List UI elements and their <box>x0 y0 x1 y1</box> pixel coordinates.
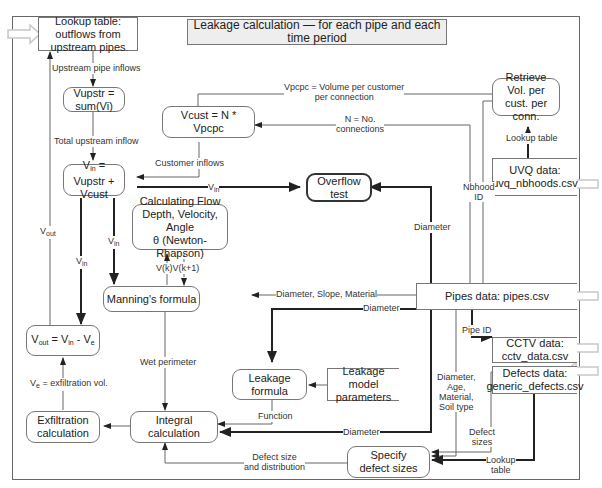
node-vupstr[interactable]: Vupstr = sum(Vi) <box>63 87 125 112</box>
cctv-title: CCTV data: <box>506 337 563 350</box>
label-vout-feedback: Vout <box>40 226 56 239</box>
label-diameter-slope-material: Diameter, Slope, Material <box>276 289 377 300</box>
label-diameter-overflow: Diameter <box>414 222 451 233</box>
node-lookup-outflows[interactable]: Lookup table: outflows from upstream pip… <box>38 17 138 51</box>
node-exfiltration[interactable]: Exfiltration calculation <box>26 411 100 443</box>
label-n-connections: N = No. connections <box>336 114 384 134</box>
vin-subscript: in <box>90 165 95 172</box>
edge-pipes-leakage <box>272 309 416 362</box>
label-pipe-id: Pipe ID <box>462 325 492 336</box>
label-damst-4: Soil type <box>437 402 476 412</box>
label-customer-inflows: Customer inflows <box>155 158 224 169</box>
newton-text: Calculating Flow Depth, Velocity, Angle <box>133 195 227 234</box>
label-lookup-1: Lookup <box>486 455 516 465</box>
label-defect-sizes-1: Defect <box>469 427 495 437</box>
node-defects-data[interactable]: Defects data: generic_defects.csv <box>492 366 577 394</box>
node-vcust[interactable]: Vcust = N * Vpcpc <box>162 106 255 138</box>
label-damst-1: Diameter, <box>437 372 476 382</box>
label-exfiltration-vol: Ve = exfiltration vol. <box>30 378 108 391</box>
node-cctv-data[interactable]: CCTV data: cctv_data.csv <box>492 337 577 363</box>
label-n-line1: N = No. <box>336 114 384 124</box>
uvq-file: uvq_nbhoods.csv <box>492 177 578 190</box>
node-specify-defects[interactable]: Specify defect sizes <box>347 446 430 478</box>
label-wet-perimeter: Wet perimeter <box>140 357 196 368</box>
node-integral-calculation[interactable]: Integral calculation <box>130 411 218 443</box>
vout-subscript: out <box>39 339 49 346</box>
label-vpcpc: Vpcpc = Volume per customer per connecti… <box>284 82 404 102</box>
label-nbhood-id: Nbhood ID <box>463 182 495 202</box>
node-uvq-data[interactable]: UVQ data: uvq_nbhoods.csv <box>492 158 577 196</box>
vout-equation: Vout = Vin - Ve <box>31 333 94 349</box>
label-function: Function <box>258 411 293 422</box>
label-nbhood-line1: Nbhood <box>463 182 495 192</box>
label-vin-vout: Vin <box>76 256 87 269</box>
label-vin-sub: in <box>214 186 219 193</box>
defects-title: Defects data: <box>503 367 568 380</box>
edge-pipes-overflow <box>370 187 431 283</box>
label-vpcpc-line2: per connection <box>284 92 404 102</box>
label-ve-text: = exfiltration vol. <box>40 378 108 388</box>
label-defect-sizes: Defect sizes <box>469 427 495 447</box>
label-defect-sizes-2: sizes <box>469 437 495 447</box>
node-overflow-test[interactable]: Overflow test <box>306 173 372 202</box>
vout-minus: - V <box>74 333 91 345</box>
node-vin[interactable]: Vin = Vupstr + Vcust <box>63 164 125 196</box>
vout-e-subscript: e <box>91 339 95 346</box>
label-lookup-table-uvq: Lookup table <box>506 133 558 144</box>
label-damst-3: Material, <box>437 392 476 402</box>
node-pipes-data[interactable]: Pipes data: pipes.csv <box>416 283 577 310</box>
label-diameter-leakage: Diameter <box>363 303 400 314</box>
node-mannings-formula[interactable]: Manning's formula <box>103 286 200 312</box>
label-defect-dist-1: Defect size <box>244 452 305 462</box>
vout-eq: = V <box>48 333 68 345</box>
label-total-upstream: Total upstream inflow <box>54 136 139 147</box>
node-leakage-params[interactable]: Leakage model parameters <box>327 368 399 401</box>
label-vin-overflow: Vin <box>208 182 219 195</box>
uvq-title: UVQ data: <box>509 164 560 177</box>
label-n-line2: connections <box>336 124 384 134</box>
label-vin2-sub: in <box>114 240 119 247</box>
vin-equation: Vin = <box>83 159 105 175</box>
edge-pipes-vcust <box>255 125 470 283</box>
label-vout-sub: out <box>46 230 56 237</box>
vin-rhs: Vupstr + Vcust <box>64 175 124 201</box>
newton-theta: θ (Newton-Rhapson) <box>133 234 227 260</box>
label-vin-manning: Vin <box>108 236 119 249</box>
label-vpcpc-line1: Vpcpc = Volume per customer <box>284 82 404 92</box>
node-vout[interactable]: Vout = Vin - Ve <box>26 325 100 356</box>
label-lookup-table-defects: Lookup table <box>486 455 516 475</box>
cctv-file: cctv_data.csv <box>502 350 569 363</box>
label-nbhood-line2: ID <box>463 192 495 202</box>
label-damst-2: Age, <box>437 382 476 392</box>
label-vk: V(k)V(k+1) <box>156 263 199 274</box>
node-leakage-formula[interactable]: Leakage formula <box>232 369 307 400</box>
defects-file: generic_defects.csv <box>486 380 583 393</box>
vout-symbol: V <box>31 333 38 345</box>
label-defect-distribution: Defect size and distribution <box>244 452 305 472</box>
label-diameter-integral: Diameter <box>343 427 380 438</box>
label-defect-dist-2: and distribution <box>244 462 305 472</box>
label-upstream-inflows: Upstream pipe inflows <box>52 63 141 74</box>
external-input-arrow-lookup <box>8 25 40 43</box>
label-vin3-sub: in <box>82 260 87 267</box>
label-lookup-2: table <box>486 465 516 475</box>
node-newton-rhapson[interactable]: Calculating Flow Depth, Velocity, Angle … <box>132 204 228 250</box>
diagram-title: Leakage calculation — for each pipe and … <box>187 19 447 45</box>
node-retrieve-vol[interactable]: Retrieve Vol. per cust. per conn. <box>492 78 560 116</box>
label-diameter-age-material-soil: Diameter, Age, Material, Soil type <box>437 372 476 412</box>
